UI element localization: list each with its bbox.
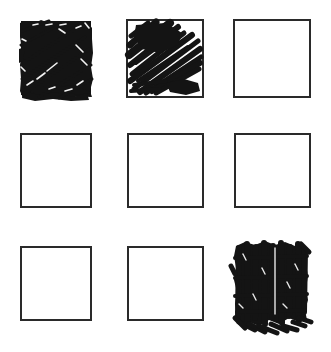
grid-cell-top-left[interactable] bbox=[19, 19, 95, 101]
square-outline-top-right bbox=[234, 20, 310, 97]
square-outline-bottom-left bbox=[21, 247, 91, 320]
grid-cell-bottom-left[interactable] bbox=[20, 246, 94, 323]
grid-cell-bottom-middle[interactable] bbox=[127, 246, 206, 323]
square-outline-middle-right bbox=[235, 134, 310, 207]
scrawl-fill-top-left bbox=[19, 20, 93, 101]
grid-cell-bottom-right[interactable] bbox=[229, 238, 315, 338]
square-grid bbox=[0, 0, 331, 352]
scribble-fill-bottom-right bbox=[231, 241, 311, 333]
grid-cell-top-middle[interactable] bbox=[126, 19, 206, 101]
square-outline-center bbox=[128, 134, 203, 207]
square-outline-middle-left bbox=[21, 134, 91, 207]
grid-cell-top-right[interactable] bbox=[233, 19, 312, 99]
grid-cell-center[interactable] bbox=[127, 133, 206, 210]
grid-cell-middle-right[interactable] bbox=[234, 133, 313, 210]
square-outline-bottom-middle bbox=[128, 247, 203, 320]
grid-cell-middle-left[interactable] bbox=[20, 133, 94, 210]
drawing-canvas: Hand-drawn 3 by 3 grid of square outline… bbox=[0, 0, 331, 352]
